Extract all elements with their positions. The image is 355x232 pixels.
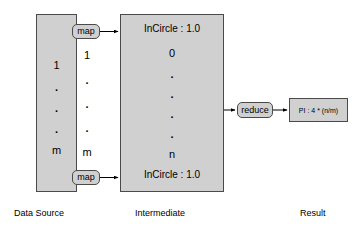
caption-intermediate: Intermediate xyxy=(135,209,185,218)
result-box: PI : 4 * (n/m) xyxy=(289,98,348,122)
intermediate-header-label: InCircle : 1.0 xyxy=(120,24,224,34)
reduce-node[interactable]: reduce xyxy=(237,102,273,118)
reduce-node-label: reduce xyxy=(241,106,269,115)
intermediate-entry: . xyxy=(170,89,173,100)
caption-result: Result xyxy=(300,209,326,218)
map-stage-entry: . xyxy=(85,123,88,134)
map-stage-entry: m xyxy=(82,147,91,158)
intermediate-entries: 0 . . . . n xyxy=(120,48,224,170)
map-node-top-label: map xyxy=(77,27,95,36)
data-source-entry: 1 xyxy=(53,60,59,71)
map-node-top[interactable]: map xyxy=(72,24,100,39)
diagram-canvas: 1 . . . m 1 . . . m map map InCircle : 1… xyxy=(0,0,355,232)
caption-data-source: Data Source xyxy=(14,209,64,218)
intermediate-entry: . xyxy=(170,109,173,120)
result-value: PI : 4 * (n/m) xyxy=(299,107,338,114)
intermediate-entry: n xyxy=(169,149,175,160)
intermediate-footer-label: InCircle : 1.0 xyxy=(120,170,224,180)
data-source-entries: 1 . . . m xyxy=(36,60,77,167)
map-node-bottom[interactable]: map xyxy=(72,170,100,185)
map-stage-entries: 1 . . . m xyxy=(76,50,98,172)
data-source-entry: . xyxy=(55,124,58,135)
intermediate-entry: . xyxy=(170,129,173,140)
data-source-entry: . xyxy=(55,82,58,93)
data-source-entry: m xyxy=(52,145,61,156)
map-stage-entry: . xyxy=(85,99,88,110)
map-node-bottom-label: map xyxy=(77,173,95,182)
intermediate-entry: 0 xyxy=(169,48,175,59)
data-source-entry: . xyxy=(55,103,58,114)
map-stage-entry: 1 xyxy=(84,50,90,61)
map-stage-entry: . xyxy=(85,75,88,86)
intermediate-entry: . xyxy=(170,69,173,80)
